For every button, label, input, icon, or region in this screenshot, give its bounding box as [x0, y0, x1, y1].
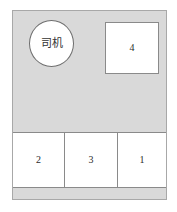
- seat-rear-middle[interactable]: 3: [65, 132, 118, 187]
- seat-rear-right[interactable]: 1: [118, 132, 166, 187]
- front-compartment: 司机 4: [13, 11, 166, 132]
- rear-seat-row: 2 3 1: [13, 132, 166, 187]
- driver-seat[interactable]: 司机: [29, 20, 74, 67]
- seat-front-passenger[interactable]: 4: [105, 22, 159, 74]
- seat-rear-middle-label: 3: [89, 155, 94, 165]
- seat-rear-left[interactable]: 2: [13, 132, 65, 187]
- driver-seat-label: 司机: [41, 38, 63, 49]
- seat-front-passenger-label: 4: [130, 43, 135, 53]
- seat-rear-right-label: 1: [140, 155, 145, 165]
- cabin-frame: 司机 4 2 3 1: [12, 10, 167, 200]
- rear-cabin-strip: [13, 187, 166, 199]
- seat-rear-left-label: 2: [36, 155, 41, 165]
- vehicle-seating-diagram: 司机 4 2 3 1: [0, 0, 177, 212]
